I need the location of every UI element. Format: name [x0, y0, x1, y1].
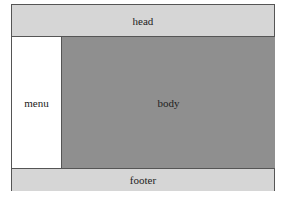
- body-label: body: [158, 97, 180, 109]
- menu-label: menu: [24, 97, 48, 109]
- menu-region: menu: [12, 37, 62, 168]
- body-region: body: [62, 37, 275, 168]
- footer-region: footer: [12, 168, 274, 191]
- page-layout-diagram: head menu body footer: [11, 4, 275, 191]
- head-region: head: [12, 5, 274, 37]
- footer-label: footer: [130, 174, 156, 186]
- head-label: head: [133, 15, 154, 27]
